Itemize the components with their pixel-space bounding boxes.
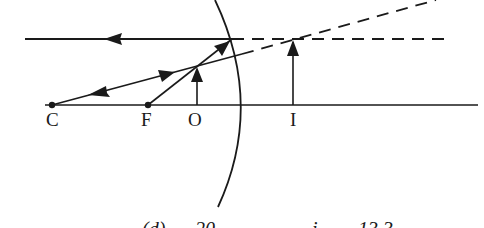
- arrow-left-icon: [104, 33, 122, 45]
- label-f: F: [141, 109, 152, 130]
- ray-diagram: C F O I (d) 20 i 13.3: [0, 0, 484, 228]
- image-arrowhead-icon: [287, 40, 299, 56]
- arrow-toward-c-icon: [88, 86, 110, 97]
- caption-part-4: 13.3: [358, 218, 393, 228]
- label-i: I: [290, 109, 296, 130]
- caption-part-1: (d): [142, 218, 166, 228]
- virtual-ray-slant: [242, 0, 436, 54]
- point-f: [145, 102, 151, 108]
- caption-part-3: i: [312, 218, 318, 228]
- arrow-up-right-icon: [214, 41, 230, 56]
- convex-mirror: [215, 0, 241, 207]
- label-c: C: [46, 109, 59, 130]
- arrow-toward-mirror-icon: [158, 70, 175, 82]
- ray-through-center: [52, 54, 242, 105]
- caption-part-2: 20: [195, 218, 215, 228]
- label-o: O: [188, 109, 202, 130]
- point-c: [49, 102, 55, 108]
